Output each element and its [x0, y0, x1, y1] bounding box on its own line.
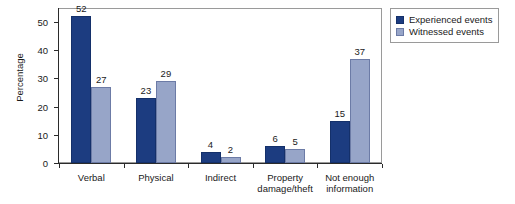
legend-item-experienced-events: Experienced events	[396, 14, 492, 25]
bar-value-label: 37	[346, 47, 374, 57]
x-axis-line	[58, 163, 382, 164]
y-axis-tick-label: 10	[4, 130, 48, 141]
chart-legend: Experienced events Witnessed events	[390, 8, 499, 43]
x-axis-tick	[188, 164, 189, 168]
legend-swatch-icon-experienced	[396, 16, 404, 24]
bar-value-label: 27	[87, 75, 115, 85]
bar-value-label: 5	[281, 137, 309, 147]
bar	[136, 98, 156, 163]
bar-value-label: 29	[152, 69, 180, 79]
bar	[221, 157, 241, 163]
bar-value-label: 15	[326, 109, 354, 119]
x-axis-category-label: Not enough information	[309, 172, 390, 194]
x-axis-tick	[317, 164, 318, 168]
legend-swatch-icon-witnessed	[396, 28, 404, 36]
y-axis-tick-label: 0	[4, 158, 48, 169]
x-axis-tick	[59, 164, 60, 168]
bar	[285, 149, 305, 163]
bar	[91, 87, 111, 163]
y-axis-tick-label: 30	[4, 73, 48, 84]
y-axis-tick-label: 20	[4, 102, 48, 113]
bar-value-label: 23	[132, 86, 160, 96]
x-axis-tick	[253, 164, 254, 168]
bar	[265, 146, 285, 163]
y-axis-tick-label: 40	[4, 45, 48, 56]
bar	[330, 121, 350, 163]
bar	[71, 16, 91, 163]
legend-label-witnessed: Witnessed events	[409, 26, 484, 37]
y-axis-tick-label: 50	[4, 17, 48, 28]
legend-label-experienced: Experienced events	[409, 14, 492, 25]
bar-chart: Percentage 01020304050 5227232942651537 …	[0, 0, 515, 204]
bar-value-label: 52	[67, 4, 95, 14]
legend-item-witnessed-events: Witnessed events	[396, 26, 492, 37]
bar-value-label: 2	[217, 145, 245, 155]
x-axis-tick	[382, 164, 383, 168]
x-axis-tick	[124, 164, 125, 168]
